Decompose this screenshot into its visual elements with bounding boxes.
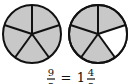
mixed-denominator: 5 [88,81,94,84]
whole-number: 1 [77,70,85,84]
improper-numerator: 9 [48,67,54,78]
improper-denominator: 5 [48,81,54,84]
circle-right [69,5,127,63]
equals-sign: = [61,70,72,84]
mixed-numerator: 4 [88,67,94,78]
fraction-diagram: 9 5 = 1 4 5 [0,0,130,84]
equation: 9 5 = 1 4 5 [47,67,95,84]
circle-left [3,5,61,63]
